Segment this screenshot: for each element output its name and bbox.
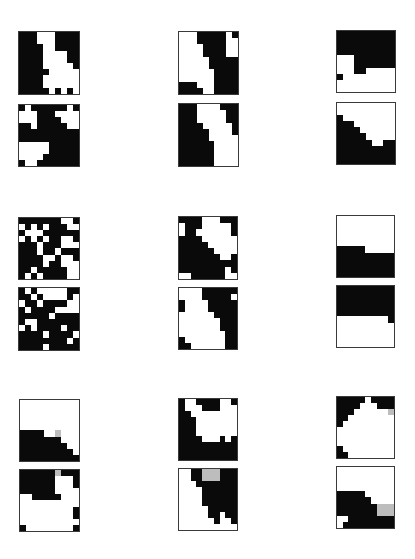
pattern-panel-r1c1-top — [18, 31, 80, 95]
pattern-panel-r3c3-top — [336, 396, 395, 459]
grid-cell — [73, 160, 79, 166]
grid-cell — [73, 455, 79, 461]
grid-cell — [73, 273, 79, 279]
pattern-panel-r1c1-bottom — [18, 104, 80, 167]
pattern-panel-r2c3-bottom — [336, 285, 395, 348]
pattern-panel-r1c3-top — [336, 30, 396, 93]
pattern-panel-r2c2-bottom — [178, 287, 238, 350]
pattern-panel-r2c1-bottom — [18, 287, 80, 351]
pattern-panel-r2c2-top — [178, 216, 238, 280]
grid-cell — [73, 88, 79, 94]
pattern-panel-r3c1-top — [19, 399, 80, 462]
grid-cell — [388, 271, 394, 277]
grid-cell — [73, 344, 79, 350]
grid-cell — [232, 160, 238, 166]
pattern-panel-r2c1-top — [18, 217, 80, 280]
grid-cell — [231, 343, 237, 349]
grid-cell — [231, 524, 237, 530]
pattern-panel-r1c2-bottom — [178, 103, 239, 167]
grid-cell — [388, 341, 394, 347]
pattern-panel-r3c1-bottom — [19, 469, 80, 532]
pattern-panel-r2c3-top — [336, 215, 395, 278]
grid-cell — [388, 452, 394, 458]
pattern-panel-r1c3-bottom — [336, 102, 396, 165]
grid-cell — [389, 86, 395, 92]
grid-cell — [231, 454, 237, 460]
grid-cell — [389, 158, 395, 164]
grid-cell — [388, 522, 394, 528]
pattern-panel-r1c2-top — [178, 31, 239, 95]
grid-cell — [231, 273, 237, 279]
pattern-panel-r3c2-bottom — [178, 468, 238, 531]
pattern-panel-r3c3-bottom — [336, 466, 395, 529]
pattern-panel-r3c2-top — [178, 398, 238, 461]
grid-cell — [73, 525, 79, 531]
grid-cell — [232, 88, 238, 94]
